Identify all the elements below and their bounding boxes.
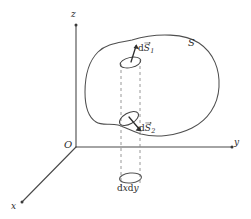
upper-label-subscript: 1 [150,47,154,55]
origin-label: O [64,140,72,150]
upper-label-symbol-text: S [144,43,150,53]
upper-patch-ellipse [119,55,142,69]
upper-label-vector-symbol: S [144,44,150,53]
x-axis-tip-dot [21,201,24,204]
lower-label-subscript: 2 [151,127,155,135]
lower-label-vector-symbol: S [145,124,151,133]
surface-integral-figure: z y x O S dS1 dS2 dxdy [0,0,251,219]
projection-dashed-lines [121,60,140,186]
surface-label: S [188,38,195,48]
lower-area-element-label: dS2 [139,124,155,134]
x-axis-line [22,147,76,202]
upper-normal-arrow-shaft [131,46,136,62]
y-axis-label: y [234,138,239,147]
z-axis-tip-dot [75,24,78,27]
projection-label-y: y [134,183,139,193]
projection-label: dxdy [117,184,139,193]
z-axis-label: z [71,10,76,19]
x-axis-label: x [11,202,16,211]
lower-label-symbol-text: S [145,123,151,133]
upper-area-element-label: dS1 [138,44,154,54]
